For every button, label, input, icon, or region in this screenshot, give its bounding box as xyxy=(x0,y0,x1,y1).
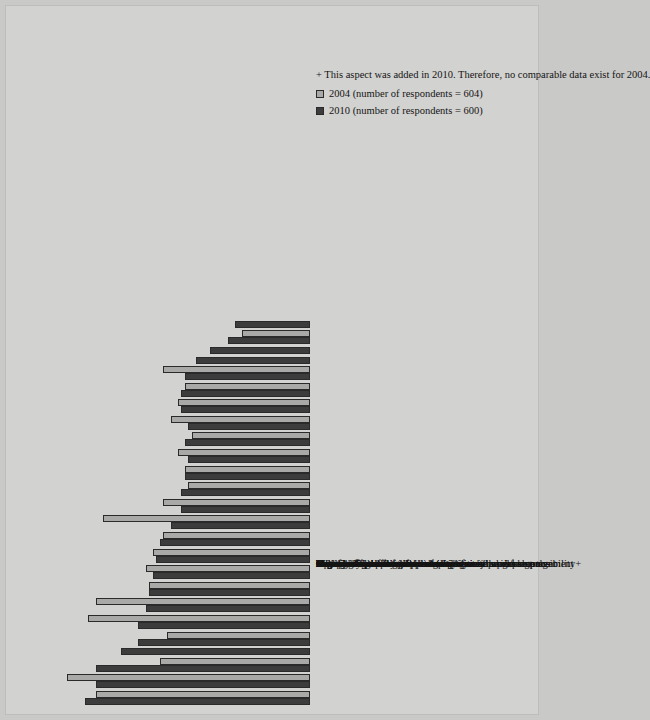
bar-series-container xyxy=(24,15,310,705)
legend-swatch xyxy=(316,90,324,98)
legend-swatch xyxy=(316,107,324,115)
bar xyxy=(228,337,310,344)
chart-legend: 2010 (number of respondents = 600)2004 (… xyxy=(316,0,516,105)
bar xyxy=(67,674,310,681)
bar xyxy=(181,390,310,397)
bar-group xyxy=(24,366,310,380)
bar xyxy=(163,499,310,506)
bar xyxy=(185,373,310,380)
bar xyxy=(149,589,310,596)
bar-group xyxy=(24,515,310,529)
axis-tick-label: 50% xyxy=(131,0,146,1)
axis-tick-label: 80% xyxy=(24,0,39,1)
bar xyxy=(235,321,310,328)
legend-item: 2004 (number of respondents = 604) xyxy=(316,88,483,99)
bar xyxy=(171,416,310,423)
bar-group xyxy=(24,549,310,563)
bar xyxy=(163,532,310,539)
bar xyxy=(210,347,310,354)
bar xyxy=(85,698,310,705)
bar-group xyxy=(24,466,310,480)
bar-group xyxy=(24,433,310,447)
bar-group xyxy=(24,482,310,496)
bar xyxy=(121,648,310,655)
bar xyxy=(156,556,310,563)
axis-tick-label: 60% xyxy=(95,0,110,1)
bar-group xyxy=(24,691,310,705)
bar-group xyxy=(24,658,310,672)
bar-group xyxy=(24,416,310,430)
bar-group xyxy=(24,582,310,596)
figure-paper: 0%10%20%30%40%50%60%70%80% Job securityB… xyxy=(6,6,538,714)
bar xyxy=(138,622,310,629)
bar xyxy=(181,406,310,413)
bar xyxy=(181,506,310,513)
bar-group xyxy=(24,383,310,397)
axis-tick-label: 20% xyxy=(238,0,253,1)
bar xyxy=(196,357,310,364)
bar-group xyxy=(24,399,310,413)
bar xyxy=(167,632,310,639)
axis-tick-label: 70% xyxy=(59,0,74,1)
bar-group xyxy=(24,330,310,344)
bar-group xyxy=(24,565,310,579)
bar-group xyxy=(24,648,310,655)
footnote: + This aspect was added in 2010. Therefo… xyxy=(316,69,650,80)
bar xyxy=(242,330,310,337)
plot-area xyxy=(24,15,310,705)
axis-tick-label: 40% xyxy=(167,0,182,1)
bar-group xyxy=(24,499,310,513)
bar xyxy=(185,473,310,480)
category-label: Organization's commitment to a “green” w… xyxy=(316,558,540,569)
bar xyxy=(96,598,311,605)
bar-group xyxy=(24,598,310,612)
bar-chart: 0%10%20%30%40%50%60%70%80% Job securityB… xyxy=(16,15,528,705)
legend-item: 2010 (number of respondents = 600) xyxy=(316,105,483,116)
bar xyxy=(153,549,310,556)
legend-label: 2010 (number of respondents = 600) xyxy=(329,105,483,116)
bar xyxy=(178,399,310,406)
legend-label: 2004 (number of respondents = 604) xyxy=(329,88,483,99)
bar xyxy=(146,565,310,572)
bar xyxy=(192,433,310,440)
bar xyxy=(96,665,311,672)
rotated-figure: 0%10%20%30%40%50%60%70%80% Job securityB… xyxy=(16,15,528,705)
bar xyxy=(103,515,310,522)
bar xyxy=(185,466,310,473)
bar-group xyxy=(24,532,310,546)
bar xyxy=(181,489,310,496)
bar xyxy=(188,482,310,489)
bar xyxy=(160,539,310,546)
bar xyxy=(188,423,310,430)
bar xyxy=(96,681,311,688)
category-axis: Job securityBenefitsOpportunities to use… xyxy=(312,15,522,705)
bar-group xyxy=(24,357,310,364)
bar xyxy=(185,383,310,390)
axis-tick-label: 10% xyxy=(274,0,289,1)
bar xyxy=(149,582,310,589)
bar-group xyxy=(24,632,310,646)
bar xyxy=(96,691,311,698)
bar xyxy=(163,366,310,373)
bar xyxy=(146,605,310,612)
bar xyxy=(171,522,310,529)
axis-tick-label: 30% xyxy=(202,0,217,1)
bar-group xyxy=(24,615,310,629)
bar-group xyxy=(24,321,310,328)
bar xyxy=(188,456,310,463)
bar-group xyxy=(24,449,310,463)
bar-group xyxy=(24,347,310,354)
bar xyxy=(153,572,310,579)
bar xyxy=(88,615,310,622)
bar-group xyxy=(24,674,310,688)
bar xyxy=(185,440,310,447)
bar xyxy=(138,639,310,646)
bar xyxy=(160,658,310,665)
bar xyxy=(178,449,310,456)
